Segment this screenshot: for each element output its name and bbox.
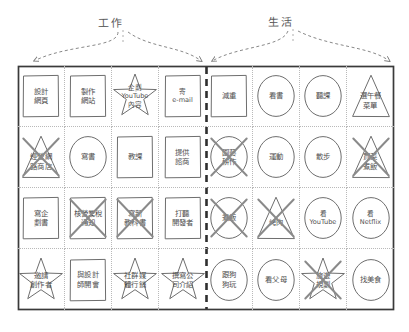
task-label: 打聽 開發者 xyxy=(172,209,194,227)
task-label: 散步 xyxy=(316,152,330,161)
task-cell[interactable]: 寫書 xyxy=(65,127,112,188)
task-label: 看 YouTube xyxy=(310,210,337,226)
circle-shape-icon: 看 Netflix xyxy=(351,195,391,241)
task-cell[interactable]: 運動 xyxy=(253,127,300,188)
rect-shape-icon: 減重 xyxy=(209,73,249,119)
star-shape-icon: 邀請 創作者 xyxy=(21,257,61,303)
task-label: 寄 e-mail xyxy=(172,88,193,104)
task-cell[interactable]: 寫新 教科書 xyxy=(112,188,159,249)
task-cell[interactable]: 選午餐 菜單 xyxy=(347,66,394,127)
task-cell[interactable]: 園藝 耕作 xyxy=(206,127,253,188)
task-label: 聽課 xyxy=(316,91,330,100)
rect-shape-icon: 與設計 師開會 xyxy=(68,257,108,303)
strikethrough-x-icon xyxy=(256,195,296,241)
strikethrough-x-icon xyxy=(21,134,61,180)
task-cell[interactable]: 提供 諮商 xyxy=(159,127,206,188)
rect-shape-icon: 設計 網頁 xyxy=(21,73,61,119)
star-shape-icon: 社群媒 體行銷 xyxy=(115,257,155,303)
circle-shape-icon: 散步 xyxy=(303,134,343,180)
circle-shape-icon: 看書 xyxy=(256,73,296,119)
circle-shape-icon: 跟狗 狗玩 xyxy=(209,257,249,303)
task-cell[interactable]: 寫企 劃書 xyxy=(18,188,65,249)
circle-shape-icon: 煮飯 xyxy=(209,195,249,241)
circle-shape-icon: 聽課 xyxy=(303,73,343,119)
task-cell[interactable]: 經營網 路商店 xyxy=(18,127,65,188)
task-label: 撰寫公 司介紹 xyxy=(172,271,194,289)
diagram-canvas: 工作 生活 設計 網頁製作 網站企劃 YouTube 內容寄 e-mail減重看… xyxy=(0,0,409,332)
star-shape-icon: 旅遊 規劃 xyxy=(303,257,343,303)
rect-shape-icon: 教課 xyxy=(115,134,155,180)
rect-shape-icon: 寄 e-mail xyxy=(163,73,203,119)
task-cell[interactable]: 與設計 師開會 xyxy=(65,249,112,310)
circle-shape-icon: 找美食 xyxy=(351,257,391,303)
triangle-shape-icon: 買菜 煮飯 xyxy=(351,134,391,180)
task-cell[interactable]: 煮飯 xyxy=(206,188,253,249)
rect-shape-icon: 寫企 劃書 xyxy=(21,195,61,241)
strikethrough-x-icon xyxy=(209,195,249,241)
task-cell[interactable]: 烤肉 xyxy=(253,188,300,249)
task-cell[interactable]: 教課 xyxy=(112,127,159,188)
task-cell[interactable]: 邀請 創作者 xyxy=(18,249,65,310)
task-label: 企劃 YouTube 內容 xyxy=(122,84,149,108)
circle-shape-icon: 看父母 xyxy=(256,257,296,303)
strikethrough-x-icon xyxy=(68,195,108,241)
task-label: 找美食 xyxy=(360,275,382,284)
task-cell[interactable]: 看父母 xyxy=(253,249,300,310)
task-label: 設計 網頁 xyxy=(34,87,48,105)
task-label: 減重 xyxy=(222,91,236,100)
circle-shape-icon: 園藝 耕作 xyxy=(209,134,249,180)
circle-shape-icon: 運動 xyxy=(256,134,296,180)
task-cell[interactable]: 撰寫公 司介紹 xyxy=(159,249,206,310)
task-cell[interactable]: 打聽 開發者 xyxy=(159,188,206,249)
task-cell[interactable]: 核營業稅 通知 xyxy=(65,188,112,249)
triangle-shape-icon: 選午餐 菜單 xyxy=(351,73,391,119)
triangle-shape-icon: 經營網 路商店 xyxy=(21,134,61,180)
task-label: 運動 xyxy=(269,152,283,161)
task-grid: 設計 網頁製作 網站企劃 YouTube 內容寄 e-mail減重看書聽課選午餐… xyxy=(18,66,394,310)
task-label: 看 Netflix xyxy=(360,210,381,226)
group-label-life: 生活 xyxy=(268,13,294,29)
task-label: 邀請 創作者 xyxy=(30,271,52,289)
task-cell[interactable]: 設計 網頁 xyxy=(18,66,65,127)
task-label: 與設計 師開會 xyxy=(77,270,99,288)
task-label: 選午餐 菜單 xyxy=(360,91,382,109)
star-shape-icon: 撰寫公 司介紹 xyxy=(163,257,203,303)
task-cell[interactable]: 企劃 YouTube 內容 xyxy=(112,66,159,127)
group-label-work: 工作 xyxy=(98,14,124,31)
rect-shape-icon: 製作 網站 xyxy=(68,73,108,119)
task-label: 看父母 xyxy=(265,275,287,284)
task-cell[interactable]: 減重 xyxy=(206,66,253,127)
task-label: 看書 xyxy=(269,91,283,100)
task-cell[interactable]: 看 YouTube xyxy=(300,188,347,249)
task-label: 製作 網站 xyxy=(81,87,95,105)
strikethrough-x-icon xyxy=(115,195,155,241)
task-cell[interactable]: 製作 網站 xyxy=(65,66,112,127)
task-label: 社群媒 體行銷 xyxy=(124,271,146,289)
life-arrow-group xyxy=(214,31,388,60)
task-label: 寫企 劃書 xyxy=(34,209,48,227)
rect-shape-icon: 核營業稅 通知 xyxy=(68,195,108,241)
task-label: 教課 xyxy=(128,152,142,161)
task-cell[interactable]: 聽課 xyxy=(300,66,347,127)
task-label: 提供 諮商 xyxy=(175,148,189,166)
task-label: 跟狗 狗玩 xyxy=(222,270,236,288)
rect-shape-icon: 寫新 教科書 xyxy=(115,195,155,241)
star-shape-icon: 企劃 YouTube 內容 xyxy=(115,73,155,119)
rect-shape-icon: 提供 諮商 xyxy=(163,134,203,180)
task-cell[interactable]: 寄 e-mail xyxy=(159,66,206,127)
task-cell[interactable]: 買菜 煮飯 xyxy=(347,127,394,188)
strikethrough-x-icon xyxy=(209,134,249,180)
task-cell[interactable]: 看 Netflix xyxy=(347,188,394,249)
circle-shape-icon: 寫書 xyxy=(68,134,108,180)
rect-shape-icon: 打聽 開發者 xyxy=(163,195,203,241)
triangle-shape-icon: 烤肉 xyxy=(256,195,296,241)
circle-shape-icon: 看 YouTube xyxy=(303,195,343,241)
task-cell[interactable]: 旅遊 規劃 xyxy=(300,249,347,310)
task-cell[interactable]: 看書 xyxy=(253,66,300,127)
task-cell[interactable]: 找美食 xyxy=(347,249,394,310)
strikethrough-x-icon xyxy=(303,257,343,303)
task-cell[interactable]: 跟狗 狗玩 xyxy=(206,249,253,310)
task-cell[interactable]: 社群媒 體行銷 xyxy=(112,249,159,310)
work-arrow-group xyxy=(36,32,200,60)
task-cell[interactable]: 散步 xyxy=(300,127,347,188)
